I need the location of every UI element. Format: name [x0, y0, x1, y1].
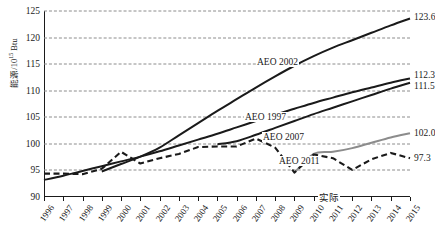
x-tick-label: 2001	[134, 203, 153, 223]
x-tick-mark	[314, 197, 315, 201]
y-tick-label: 110	[14, 86, 40, 96]
x-tick-mark	[294, 197, 295, 201]
series-line-aeo-2002	[102, 18, 410, 171]
x-tick-mark	[121, 197, 122, 201]
x-tick-mark	[352, 197, 353, 201]
y-tick-label: 100	[14, 139, 40, 149]
x-tick-label: 2013	[365, 203, 384, 223]
y-tick-label: 125	[14, 6, 40, 16]
x-tick-mark	[44, 197, 45, 201]
x-tick-label: 2008	[269, 203, 288, 223]
x-tick-label: 2004	[192, 203, 211, 223]
series-line-aeo-1997	[44, 78, 410, 180]
x-tick-mark	[102, 197, 103, 201]
x-tick-label: 1999	[95, 203, 114, 223]
y-tick-label: 105	[14, 112, 40, 122]
series-label-aeo2007: AEO 2007	[262, 132, 305, 142]
plot-area: 9095100105110115120125 19961997199819992…	[44, 11, 410, 197]
x-tick-mark	[63, 197, 64, 201]
x-tick-label: 2012	[346, 203, 365, 223]
x-tick-mark	[83, 197, 84, 201]
x-tick-mark	[160, 197, 161, 201]
x-tick-mark	[371, 197, 372, 201]
x-tick-label: 1998	[76, 203, 95, 223]
series-label-aeo1997: AEO 1997	[244, 112, 287, 122]
x-tick-label: 1996	[38, 203, 57, 223]
x-tick-mark	[198, 197, 199, 201]
series-label-actual: 实际	[318, 190, 340, 204]
x-tick-label: 2011	[327, 203, 345, 223]
x-tick-label: 2006	[230, 203, 249, 223]
y-tick-label: 90	[14, 192, 40, 202]
x-tick-label: 2000	[115, 203, 134, 223]
series-end-value-aeo2011: 102.0	[414, 128, 435, 138]
x-tick-mark	[237, 197, 238, 201]
x-tick-label: 2007	[250, 203, 269, 223]
y-tick-label: 120	[14, 33, 40, 43]
y-axis-title-exponent: 15	[8, 53, 14, 59]
x-tick-mark	[179, 197, 180, 201]
x-tick-mark	[140, 197, 141, 201]
series-end-value-aeo2002: 123.6	[414, 12, 435, 22]
y-tick-label: 95	[14, 165, 40, 175]
y-tick-label: 115	[14, 59, 40, 69]
x-tick-label: 2015	[404, 203, 423, 223]
x-tick-label: 1997	[57, 203, 76, 223]
series-label-aeo2002: AEO 2002	[256, 57, 299, 67]
series-end-value-actual: 97.3	[414, 153, 431, 163]
series-line-layer	[44, 11, 410, 197]
x-tick-label: 2009	[288, 203, 307, 223]
x-tick-label: 2002	[153, 203, 172, 223]
x-tick-mark	[256, 197, 257, 201]
x-tick-label: 2010	[307, 203, 326, 223]
x-tick-label: 2003	[173, 203, 192, 223]
x-tick-mark	[217, 197, 218, 201]
x-tick-mark	[391, 197, 392, 201]
series-end-value-aeo1997: 112.3	[414, 70, 435, 80]
x-tick-mark	[410, 197, 411, 201]
series-end-value-aeo2007: 111.5	[414, 81, 435, 91]
x-tick-mark	[275, 197, 276, 201]
x-tick-label: 2005	[211, 203, 230, 223]
series-label-aeo2011: AEO 2011	[278, 156, 321, 166]
x-tick-label: 2014	[384, 203, 403, 223]
